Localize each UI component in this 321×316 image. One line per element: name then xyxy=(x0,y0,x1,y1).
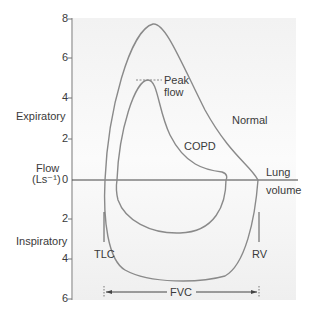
y-tick-2: 2 xyxy=(54,132,68,144)
expiratory-label: Expiratory xyxy=(16,110,66,122)
flow-unit-label: (Ls⁻¹) xyxy=(32,173,61,185)
lung-label: Lung xyxy=(266,166,290,178)
y-tick-8: 8 xyxy=(54,12,68,24)
fvc-label: FVC xyxy=(170,286,192,298)
peak-flow-label-2: flow xyxy=(164,86,184,98)
y-tick-4: 4 xyxy=(54,91,68,103)
rv-label: RV xyxy=(252,248,267,260)
y-tick-6: 6 xyxy=(54,51,68,63)
tlc-label: TLC xyxy=(94,248,115,260)
y-tick-neg4: 4 xyxy=(54,252,68,264)
normal-label: Normal xyxy=(232,114,267,126)
peak-flow-label-1: Peak xyxy=(164,74,189,86)
volume-label: volume xyxy=(266,184,301,196)
y-tick-neg2: 2 xyxy=(54,212,68,224)
inspiratory-label: Inspiratory xyxy=(16,235,67,247)
y-ticks xyxy=(68,19,72,299)
y-tick-neg6: 6 xyxy=(54,292,68,304)
flow-volume-plot xyxy=(0,0,321,316)
copd-label: COPD xyxy=(184,140,216,152)
